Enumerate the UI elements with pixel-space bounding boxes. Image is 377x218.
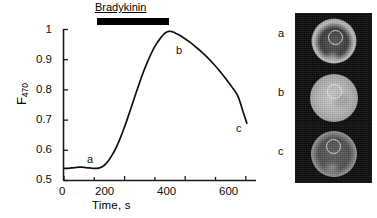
micrograph-row-label-b: b <box>278 86 284 98</box>
data-trace <box>64 31 247 168</box>
micrograph-cell-b <box>295 70 372 127</box>
figure-panel: Bradykinin 1 0.9 0.8 0.7 0.6 0.5 0 200 4… <box>0 0 377 218</box>
micrograph-row-label-a: a <box>278 27 284 39</box>
image-noise <box>295 126 372 183</box>
micrograph-cell-c <box>295 126 372 183</box>
line-chart: Bradykinin 1 0.9 0.8 0.7 0.6 0.5 0 200 4… <box>0 0 270 218</box>
image-noise <box>295 13 372 70</box>
axes-lines <box>64 29 257 181</box>
micrograph-cell-a <box>295 13 372 70</box>
chart-canvas <box>0 0 270 218</box>
image-noise <box>295 70 372 127</box>
micrograph-row-label-c: c <box>278 145 284 157</box>
micrograph-strip <box>295 13 372 183</box>
